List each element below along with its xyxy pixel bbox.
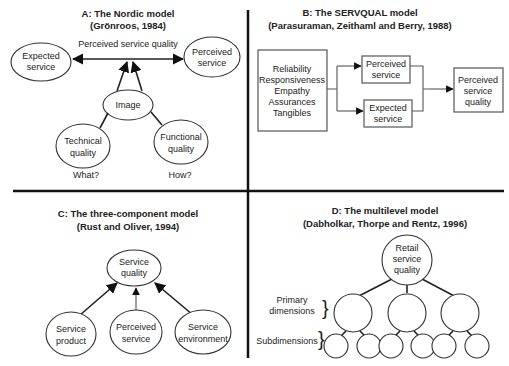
expected-service-box-line2: service [374, 114, 403, 124]
service-environment-node [175, 310, 231, 354]
merge-connector [410, 66, 430, 111]
panel-c-title: C: The three-component model [58, 208, 198, 219]
subdimension-node-3 [379, 334, 403, 358]
primary-dimension-node-1 [334, 294, 372, 332]
panel-c-subtitle: (Rust and Oliver, 1994) [77, 221, 179, 232]
perceived-service-line2: service [198, 58, 227, 68]
functional-to-image-line [151, 112, 162, 125]
panel-b-servqual-model: B: The SERVQUAL model (Parasuraman, Zeit… [258, 7, 503, 131]
subdimension-node-5 [432, 334, 456, 358]
technical-to-image-line [100, 113, 108, 128]
functional-quality-line1: Functional [160, 132, 202, 142]
technical-quality-node [56, 124, 110, 168]
subdimension-node-1 [324, 334, 348, 358]
primary-dimensions-line1: Primary [277, 295, 308, 305]
quality-box-line2: service [464, 86, 493, 96]
panel-a-nordic-model: A: The Nordic model (Grönroos, 1984) Per… [11, 8, 240, 180]
service-environment-line2: environment [178, 334, 228, 344]
expected-service-line1: Expected [22, 51, 60, 61]
split-connector [327, 66, 337, 111]
dimension-tangibles: Tangibles [273, 108, 312, 118]
retail-line3: quality [394, 265, 421, 275]
image-to-quality-arrow-left [117, 62, 127, 91]
subdimension-node-4 [411, 334, 435, 358]
perceived-service-box-line1: Perceived [366, 59, 406, 69]
perceived-service-node [184, 37, 240, 77]
primary-brace: } [322, 297, 329, 319]
perceived-service-node [110, 310, 162, 354]
panel-d-multilevel-model: D: The multilevel model (Dabholkar, Thor… [256, 205, 489, 358]
primary-dimension-node-3 [441, 294, 479, 332]
perceived-service-line1: Perceived [116, 322, 156, 332]
service-product-line2: product [56, 336, 87, 346]
panel-a-subtitle: (Grönroos, 1984) [90, 20, 166, 31]
service-quality-models-figure: A: The Nordic model (Grönroos, 1984) Per… [0, 0, 509, 366]
retail-line2: service [393, 254, 422, 264]
primary-dimensions-line2: dimensions [269, 306, 315, 316]
service-environment-line1: Service [188, 322, 218, 332]
subdimensions-brace: } [318, 328, 325, 350]
quality-box-line1: Perceived [458, 75, 498, 85]
perceived-service-line1: Perceived [192, 47, 232, 57]
subdimensions-label: Subdimensions [256, 336, 318, 346]
perceived-service-box-line2: service [372, 70, 401, 80]
technical-quality-line1: Technical [64, 136, 102, 146]
panel-d-title: D: The multilevel model [332, 205, 439, 216]
technical-quality-line2: quality [70, 148, 97, 158]
image-to-quality-arrow-right [133, 62, 142, 91]
product-to-quality-arrow [80, 283, 117, 315]
panel-d-subtitle: (Dabholkar, Thorpe and Rentz, 1996) [303, 218, 467, 229]
panel-b-subtitle: (Parasuraman, Zeithaml and Berry, 1988) [268, 20, 452, 31]
perceived-service-line2: service [122, 334, 151, 344]
dimension-responsiveness: Responsiveness [259, 75, 326, 85]
what-caption: What? [73, 170, 99, 180]
expected-service-box-line1: Expected [369, 103, 407, 113]
dimension-assurances: Assurances [268, 97, 316, 107]
quality-box-line3: quality [465, 97, 492, 107]
subdimension-node-6 [465, 334, 489, 358]
functional-quality-node [154, 120, 208, 164]
dimension-reliability: Reliability [273, 64, 312, 74]
subdimension-node-2 [357, 334, 381, 358]
service-quality-line2: quality [121, 268, 148, 278]
service-product-node [46, 312, 96, 356]
image-label: Image [115, 100, 140, 110]
service-quality-line1: Service [119, 257, 149, 267]
panel-a-title: A: The Nordic model [82, 8, 175, 19]
expected-service-line2: service [27, 62, 56, 72]
dimension-empathy: Empathy [274, 86, 310, 96]
retail-line1: Retail [395, 243, 418, 253]
how-caption: How? [168, 170, 191, 180]
primary-dimension-node-2 [388, 294, 426, 332]
panel-c-three-component-model: C: The three-component model (Rust and O… [46, 208, 231, 356]
perceived-service-quality-label: Perceived service quality [78, 39, 178, 49]
environment-to-quality-arrow [155, 283, 193, 315]
functional-quality-line2: quality [168, 144, 195, 154]
panel-b-title: B: The SERVQUAL model [302, 7, 417, 18]
service-product-line1: Service [56, 324, 86, 334]
